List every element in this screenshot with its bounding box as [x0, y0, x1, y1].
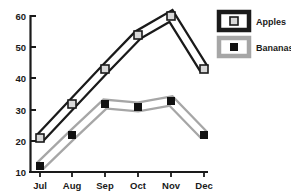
data-point-apples-oct — [134, 31, 142, 39]
data-point-apples-jul — [36, 134, 44, 142]
data-point-bananas-dec — [200, 131, 208, 139]
data-point-apples-sep — [101, 65, 109, 73]
x-tick-labels: Jul Aug Sep Oct Nov Dec — [33, 180, 213, 191]
y-tick-label-40: 40 — [15, 73, 26, 84]
x-tick-label-nov: Nov — [162, 180, 181, 191]
data-point-apples-nov — [167, 12, 175, 20]
data-point-bananas-nov — [167, 97, 175, 105]
x-tick-label-aug: Aug — [63, 180, 82, 191]
legend-marker-bananas-square-filled-icon — [230, 43, 238, 51]
x-tick-label-sep: Sep — [96, 180, 114, 191]
y-tick-label-50: 50 — [15, 42, 26, 53]
data-point-apples-dec — [200, 65, 208, 73]
legend-label-bananas: Bananas — [256, 43, 291, 53]
y-tick-label-20: 20 — [15, 136, 26, 147]
x-tick-label-oct: Oct — [130, 180, 147, 191]
chart-legend: Apples Bananas — [219, 12, 291, 56]
x-tick-label-dec: Dec — [195, 180, 212, 191]
legend-marker-apples-square-hollow-icon — [230, 17, 238, 25]
data-point-bananas-sep — [101, 100, 109, 108]
data-point-bananas-aug — [68, 131, 76, 139]
data-point-apples-aug — [68, 100, 76, 108]
data-point-bananas-jul — [36, 162, 44, 170]
legend-label-apples: Apples — [256, 17, 286, 27]
y-tick-label-60: 60 — [15, 11, 26, 22]
legend-item-bananas[interactable]: Bananas — [219, 38, 291, 56]
chart-canvas: 60 50 40 30 20 10 Jul Aug Sep Oct Nov De… — [0, 0, 291, 193]
legend-item-apples[interactable]: Apples — [219, 12, 286, 30]
y-tick-label-10: 10 — [15, 167, 26, 178]
series-apples — [40, 16, 204, 138]
data-point-bananas-oct — [134, 103, 142, 111]
y-tick-label-30: 30 — [15, 105, 26, 116]
y-tick-labels: 60 50 40 30 20 10 — [15, 11, 26, 178]
line-chart-figure: 60 50 40 30 20 10 Jul Aug Sep Oct Nov De… — [0, 0, 291, 193]
x-tick-label-jul: Jul — [33, 180, 47, 191]
